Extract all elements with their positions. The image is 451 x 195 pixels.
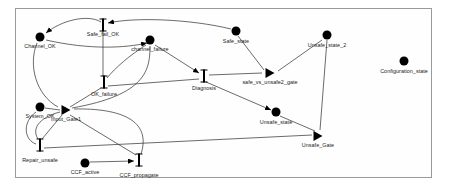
activity-label-ok_failure: OK_failure [91,91,117,98]
arc-channel_ok-to-input_gate1 [33,43,58,107]
place-system_ok[interactable] [36,103,45,112]
activity-cap-top-icon [100,19,107,20]
arc-diagnosis-to-safe_vs_unsafe2_gate [209,73,262,75]
arc-ok_failure-to-diagnosis [108,79,199,86]
activity-cap-bottom-icon [37,151,44,152]
activity-ccf_propagate[interactable] [138,154,140,167]
activity-cap-bottom-icon [201,82,208,83]
place-label-safe_state: Safe_state [223,38,249,45]
place-label-ccf_active: CCF_active [71,169,100,176]
arc-repair_unsafe-to-unsafe_gate [44,135,312,148]
place-unsafe_state_2[interactable] [323,31,332,40]
activity-label-ccf_propagate: CCF_propagate [119,172,158,179]
place-label-unsafe_state: Unsafe_state [260,119,292,126]
place-channel_failure[interactable] [146,36,155,45]
gate-unsafe_gate[interactable] [314,131,323,141]
activity-label-diagnosis: Diagnosis [192,85,216,92]
arc-system_ok-to-input_gate1 [45,108,60,110]
activity-cap-top-icon [136,154,143,155]
place-unsafe_state[interactable] [272,108,281,117]
activity-cap-bottom-icon [101,88,108,89]
gate-label-safe_vs_unsafe2_gate: safe_vs_unsafe2_gate [242,79,297,86]
place-ccf_active[interactable] [81,159,90,168]
gate-input_gate1[interactable] [62,105,71,115]
place-label-channel_ok: Channel_OK [24,43,55,50]
activity-cap-top-icon [37,139,44,140]
place-label-channel_failure: channel_failure [131,46,168,53]
place-label-configuration_state: Configuration_state [380,68,428,75]
activity-diagnosis[interactable] [203,70,205,83]
arc-paths [26,18,327,162]
activity-ok_failure[interactable] [103,76,105,89]
arc-safe_state-to-safe_fail_ok [108,20,231,29]
activity-cap-top-icon [101,76,108,77]
place-configuration_state[interactable] [400,57,409,66]
arc-ccf_active-to-ccf_propagate [90,161,134,162]
arc-unsafe_state_2-to-unsafe_gate [320,40,327,130]
activity-cap-top-icon [201,70,208,71]
arc-layer [0,0,451,195]
diagram-canvas: Channel_OKchannel_failureSafe_stateUnsaf… [0,0,451,195]
gate-label-input_gate1: Input_Gate1 [51,116,81,123]
activity-safe_fail_ok[interactable] [102,19,104,32]
arc-ccf_propagate-to-input_gate1 [74,109,143,154]
activity-label-safe_fail_ok: Safe_fail_OK [87,31,119,38]
place-label-unsafe_state_2: Unsafe_state_2 [308,42,346,49]
gate-label-unsafe_gate: Unsafe_Gate [302,142,334,149]
activity-label-repair_unsafe: Repair_unsafe [22,157,58,164]
gate-safe_vs_unsafe2_gate[interactable] [266,68,275,78]
activity-cap-bottom-icon [136,166,143,167]
activity-repair_unsafe[interactable] [39,139,41,152]
place-safe_state[interactable] [232,27,241,36]
place-channel_ok[interactable] [36,33,45,42]
